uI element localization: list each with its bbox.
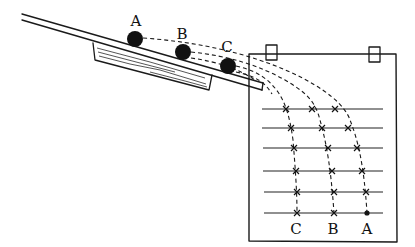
- trace-label-c: C: [290, 220, 301, 238]
- ball-a-icon: [127, 31, 143, 47]
- ruled-lines: [262, 109, 383, 213]
- trajectory-diagram: A B C C B A: [0, 0, 415, 247]
- ball-label-b: B: [176, 25, 187, 43]
- ball-c-icon: [220, 58, 236, 74]
- ball-b-icon: [175, 44, 191, 60]
- ball-label-c: C: [221, 38, 232, 56]
- clip-left-icon: [266, 45, 277, 60]
- ball-label-a: A: [130, 12, 142, 30]
- impact-marks: [283, 106, 369, 216]
- trace-label-a: A: [361, 220, 373, 238]
- wooden-block: [93, 43, 212, 90]
- trace-label-b: B: [327, 220, 338, 238]
- trajectory-paths: [143, 38, 367, 213]
